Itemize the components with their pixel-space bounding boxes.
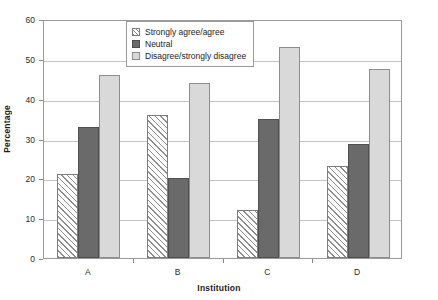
legend-swatch [132,52,140,60]
grouped-bar-chart: Percentage 0102030405060 ABCD Institutio… [0,0,438,300]
legend-label: Neutral [145,39,172,49]
x-tick-label: D [354,267,360,277]
x-tick-label: A [85,267,91,277]
bar [369,69,390,258]
y-tick-label: 60 [13,15,35,25]
y-axis-title: Percentage [2,105,16,153]
bar [57,174,78,258]
y-tick-label: 50 [13,55,35,65]
x-axis-title: Institution [0,283,438,293]
legend-item: Disagree/strongly disagree [132,50,246,62]
x-tick-mark [312,259,313,263]
y-tick-label: 20 [13,174,35,184]
bar [189,83,210,258]
bar [78,127,99,258]
y-tick-label: 10 [13,214,35,224]
bar [279,47,300,258]
legend-swatch [132,40,140,48]
y-tick-label: 0 [13,254,35,264]
gridline [44,101,401,102]
legend-item: Neutral [132,38,246,50]
y-tick-mark [39,259,43,260]
bar [327,166,348,258]
bar [99,75,120,258]
bar [147,115,168,258]
x-tick-label: C [264,267,270,277]
bar [237,210,258,258]
x-tick-label: B [175,267,181,277]
x-tick-mark [133,259,134,263]
legend-item: Strongly agree/agree [132,26,246,38]
bar [348,144,369,258]
x-tick-mark [223,259,224,263]
y-tick-label: 30 [13,135,35,145]
bar [258,119,279,258]
y-tick-label: 40 [13,95,35,105]
legend-label: Strongly agree/agree [145,27,224,37]
legend-label: Disagree/strongly disagree [145,51,246,61]
bar [168,178,189,258]
legend-swatch [132,28,140,36]
chart-legend: Strongly agree/agreeNeutralDisagree/stro… [126,21,254,67]
